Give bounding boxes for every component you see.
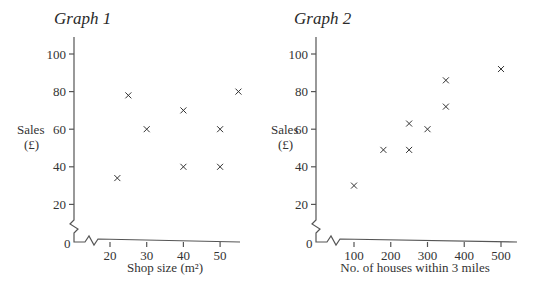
graph-2-title: Graph 2	[294, 9, 352, 28]
graph-2-ylabel-unit: (£)	[278, 137, 293, 152]
y-tick-label: 40	[295, 159, 308, 174]
x-tick-label: 300	[418, 248, 438, 263]
graph-1: Graph 1 Sales (£) 0 Shop size (m²) 20406…	[17, 9, 241, 275]
y-tick-label: 60	[53, 122, 66, 137]
graph-1-origin-label: 0	[64, 236, 71, 251]
data-point-x-marker	[180, 107, 186, 113]
x-tick-label: 400	[455, 248, 475, 263]
axes-line	[70, 37, 240, 245]
x-tick-label: 100	[344, 248, 364, 263]
y-tick-label: 100	[47, 47, 67, 62]
y-tick-label: 60	[295, 122, 308, 137]
data-point-x-marker	[406, 121, 412, 127]
data-point-x-marker	[217, 164, 223, 170]
graph-2: Graph 2 Sales (£) 0 No. of houses within…	[271, 9, 517, 275]
axes-line	[312, 37, 517, 245]
data-point-x-marker	[406, 147, 412, 153]
data-point-x-marker	[380, 147, 386, 153]
x-tick-label: 20	[104, 248, 117, 263]
y-tick-label: 20	[53, 197, 66, 212]
data-point-x-marker	[425, 126, 431, 132]
x-tick-label: 200	[381, 248, 401, 263]
graph-1-points	[114, 89, 241, 181]
data-point-x-marker	[217, 126, 223, 132]
graph-1-title: Graph 1	[54, 9, 111, 28]
x-tick-label: 40	[177, 248, 190, 263]
y-tick-label: 20	[295, 197, 308, 212]
graph-2-axes: 20406080100100200300400500	[289, 37, 518, 263]
charts-canvas: Graph 1 Sales (£) 0 Shop size (m²) 20406…	[0, 0, 541, 290]
data-point-x-marker	[443, 104, 449, 110]
graph-2-origin-label: 0	[306, 236, 313, 251]
x-tick-label: 50	[214, 248, 227, 263]
y-tick-label: 40	[53, 159, 66, 174]
graph-1-axes: 2040608010020304050	[47, 37, 241, 263]
data-point-x-marker	[114, 175, 120, 181]
graph-1-ylabel-unit: (£)	[24, 137, 39, 152]
data-point-x-marker	[144, 126, 150, 132]
y-tick-label: 100	[289, 47, 309, 62]
y-tick-label: 80	[295, 84, 308, 99]
data-point-x-marker	[498, 66, 504, 72]
y-tick-label: 80	[53, 84, 66, 99]
graph-2-points	[351, 66, 504, 189]
x-tick-label: 30	[140, 248, 153, 263]
data-point-x-marker	[235, 89, 241, 95]
data-point-x-marker	[180, 164, 186, 170]
data-point-x-marker	[443, 77, 449, 83]
graph-1-ylabel: Sales	[17, 122, 44, 137]
data-point-x-marker	[351, 183, 357, 189]
graph-1-xlabel: Shop size (m²)	[127, 260, 203, 275]
x-tick-label: 500	[491, 248, 511, 263]
data-point-x-marker	[125, 92, 131, 98]
